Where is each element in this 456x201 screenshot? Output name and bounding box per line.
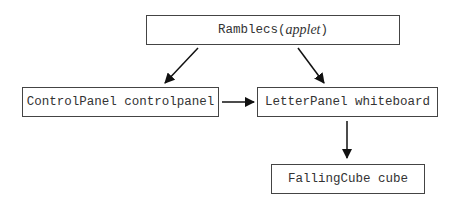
- node-letterpanel: LetterPanel whiteboard: [257, 87, 438, 117]
- node-ramblecs-applet: Ramblecs (applet): [146, 15, 400, 45]
- node-label: LetterPanel whiteboard: [265, 95, 430, 109]
- node-controlpanel: ControlPanel controlpanel: [22, 87, 219, 117]
- arrow-rambles-to-letterpanel: [298, 48, 324, 83]
- node-label-italic: applet: [286, 22, 321, 38]
- node-fallingcube: FallingCube cube: [271, 164, 425, 194]
- arrow-rambles-to-controlpanel: [165, 48, 198, 83]
- node-label: ControlPanel controlpanel: [27, 95, 215, 109]
- node-label: Ramblecs: [218, 23, 278, 37]
- node-label-paren-open: (: [278, 23, 286, 37]
- node-label-paren-close: ): [321, 23, 329, 37]
- node-label: FallingCube cube: [288, 172, 408, 186]
